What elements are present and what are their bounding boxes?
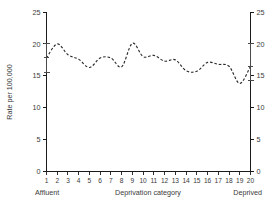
y-tick-label-right: 10 <box>257 103 265 112</box>
y-tick-label-right: 20 <box>257 40 265 49</box>
x-tick-label: 8 <box>120 177 124 184</box>
x-tick-label: 2 <box>55 177 59 184</box>
y-tick-label-right: 25 <box>257 8 265 17</box>
x-tick-label: 19 <box>236 177 244 184</box>
y-axis-left-ticks: 0510152025 <box>33 8 47 177</box>
y-tick-label-left: 10 <box>33 103 41 112</box>
x-tick-label: 11 <box>150 177 157 184</box>
x-tick-label: 9 <box>131 177 135 184</box>
y-tick-label-left: 5 <box>37 135 41 144</box>
x-tick-label: 12 <box>161 177 169 184</box>
y-tick-label-left: 0 <box>37 167 41 176</box>
line-chart: 0510152025 0510152025 123456789101112131… <box>0 0 280 200</box>
x-tick-label: 20 <box>247 177 255 184</box>
x-axis-title: Deprivation category <box>115 188 181 197</box>
x-tick-label: 13 <box>172 177 180 184</box>
data-series-line <box>47 43 251 83</box>
y-tick-label-left: 25 <box>33 8 41 17</box>
x-tick-label: 4 <box>77 177 81 184</box>
x-tick-label: 6 <box>98 177 102 184</box>
x-tick-label: 3 <box>66 177 70 184</box>
y-tick-label-right: 0 <box>257 167 261 176</box>
chart-container: 0510152025 0510152025 123456789101112131… <box>0 0 280 200</box>
x-tick-label: 15 <box>193 177 201 184</box>
y-tick-label-left: 20 <box>33 40 41 49</box>
x-tick-label: 16 <box>204 177 212 184</box>
x-tick-label: 1 <box>45 177 49 184</box>
x-tick-label: 7 <box>109 177 113 184</box>
x-tick-label: 18 <box>225 177 233 184</box>
error-bars <box>44 43 254 81</box>
x-axis-ticks: 1234567891011121314151617181920 <box>45 172 255 184</box>
x-axis-right-annotation: Deprived <box>233 188 262 197</box>
x-axis-left-annotation: Affluent <box>35 188 59 197</box>
y-tick-label-left: 15 <box>33 71 41 80</box>
x-tick-label: 10 <box>139 177 147 184</box>
y-axis-title: Rate per 100,000 <box>5 64 14 120</box>
x-tick-label: 5 <box>88 177 92 184</box>
x-tick-label: 14 <box>182 177 190 184</box>
y-tick-label-right: 5 <box>257 135 261 144</box>
y-tick-label-right: 15 <box>257 71 265 80</box>
x-tick-label: 17 <box>215 177 223 184</box>
y-axis-right-ticks: 0510152025 <box>251 8 265 177</box>
